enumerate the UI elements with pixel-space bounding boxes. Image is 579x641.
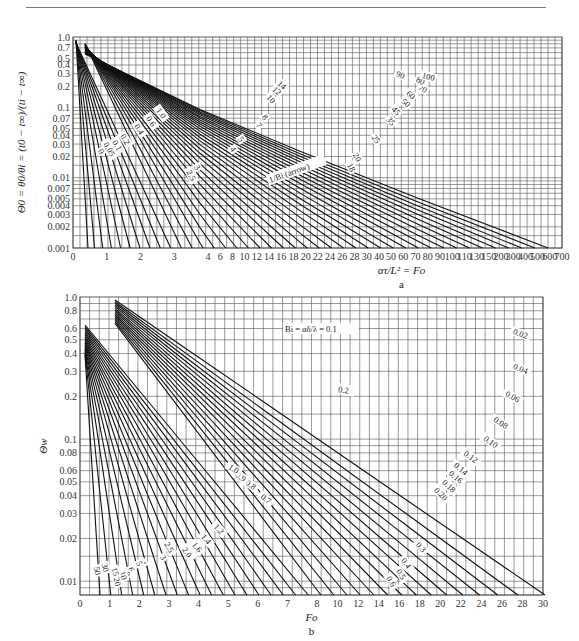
y-tick-label: 0.01 [60,576,78,587]
y-tick-label: 0.05 [60,476,78,487]
y-tick-label: 0.03 [60,508,78,519]
x-tick-label: 22 [456,598,466,609]
x-tick-label: 6 [255,598,260,609]
annotation: 0.2 [337,384,349,396]
x-tick-label: 14 [374,598,384,609]
x-tick-label: 24 [476,598,486,609]
y-axis-ticks: 1.00.80.60.50.40.30.20.10.080.060.050.04… [60,292,78,587]
y-tick-label: 0.1 [65,434,78,445]
y-tick-label: 0.8 [65,305,78,316]
x-tick-label: 30 [538,598,548,609]
x-axis-ticks: 0123456781012141618202224262830 [78,598,549,609]
x-tick-label: 4 [196,598,201,609]
x-tick-label: 5 [226,598,231,609]
x-tick-label: 0 [78,598,83,609]
curve-0.20 [115,315,388,595]
annotation: Bi = αδ/λ = 0.1 [285,324,337,334]
y-tick-label: 0.3 [65,366,78,377]
y-tick-label: 0.4 [65,348,78,359]
curve-family [85,300,545,595]
x-tick-label: 7 [285,598,290,609]
y-tick-label: 0.5 [65,334,78,345]
y-tick-label: 0.08 [60,447,78,458]
plot-area-b: 0.020.040.060.080.100.120.140.160.180.20… [80,297,545,595]
x-tick-label: 28 [517,598,527,609]
chart-b: 0.020.040.060.080.100.120.140.160.180.20… [0,0,579,641]
x-tick-label: 3 [166,598,171,609]
y-tick-label: 0.06 [60,465,78,476]
curve-0.3 [115,317,374,595]
curve-0.4 [115,318,360,595]
x-tick-label: 18 [415,598,425,609]
x-tick-label: 2 [137,598,142,609]
curve-0.16 [115,312,416,595]
x-tick-label: 16 [394,598,404,609]
curve-0.18 [115,313,402,595]
x-tick-label: 1 [107,598,112,609]
x-tick-label: 8 [315,598,320,609]
y-tick-label: 0.04 [60,490,78,501]
x-tick-label: 20 [435,598,445,609]
x-axis-label: Fo [304,611,318,623]
x-tick-label: 12 [353,598,363,609]
y-tick-label: 0.6 [65,323,78,334]
y-tick-label: 0.02 [60,533,78,544]
y-axis-label: Θw [37,438,49,454]
y-tick-label: 1.0 [65,292,78,303]
x-tick-label: 10 [333,598,343,609]
x-tick-label: 26 [497,598,507,609]
chart-caption: b [309,625,315,637]
y-tick-label: 0.2 [65,391,78,402]
